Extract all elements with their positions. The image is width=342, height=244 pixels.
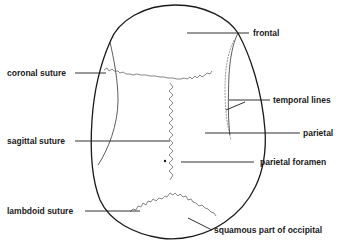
label-sagittal-suture: sagittal suture xyxy=(7,136,65,146)
label-coronal-suture: coronal suture xyxy=(7,68,66,78)
leader-temporal-lines-2 xyxy=(226,102,245,110)
lambdoid-suture-line xyxy=(130,193,216,216)
sagittal-suture-line xyxy=(169,83,173,180)
leader-squamous-occipital xyxy=(188,218,212,230)
label-parietal-foramen: parietal foramen xyxy=(260,157,326,167)
skull-vault-diagram: frontal coronal suture temporal lines pa… xyxy=(0,0,342,244)
right-temporal-line-inner xyxy=(225,40,234,140)
label-squamous-part-of-occipital: squamous part of occipital xyxy=(214,225,322,235)
skull-outer-outline xyxy=(91,5,265,239)
left-temporal-line xyxy=(98,42,118,165)
label-parietal: parietal xyxy=(303,128,333,138)
parietal-foramen-dot xyxy=(164,160,166,162)
coronal-suture-line xyxy=(104,68,212,79)
label-frontal: frontal xyxy=(253,28,279,38)
label-temporal-lines: temporal lines xyxy=(273,95,331,105)
label-lambdoid-suture: lambdoid suture xyxy=(7,206,73,216)
right-temporal-line-outer xyxy=(228,33,238,135)
